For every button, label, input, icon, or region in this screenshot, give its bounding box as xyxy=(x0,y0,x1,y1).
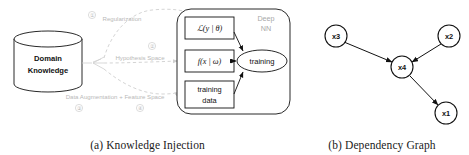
training-node-label: training xyxy=(250,57,275,66)
loss-function-box: ℒ(y | θ) xyxy=(185,17,234,39)
dependency-graph-diagram: x3 x2 x4 x1 xyxy=(295,0,469,130)
deep-nn-label-line1: Deep xyxy=(257,14,274,23)
panel-b-caption: (b) Dependency Graph xyxy=(295,139,469,151)
edge-x4-to-x1 xyxy=(410,76,438,105)
deep-nn-label-line2: NN xyxy=(261,24,271,33)
pathway-label-bottom: Data Augmentation + Feature Space xyxy=(66,93,165,100)
pathway-label-hypothesis-space: ② Hypothesis Space xyxy=(115,42,165,60)
training-node: training xyxy=(237,50,287,72)
graph-node-x4: x4 xyxy=(391,56,413,78)
training-data-box: training data xyxy=(185,81,234,108)
pathway-data-augmentation-line xyxy=(104,69,180,94)
training-data-label-line1: training xyxy=(197,85,221,94)
loss-function-label: ℒ(y | θ) xyxy=(197,24,223,33)
graph-node-x3-label: x3 xyxy=(332,32,340,41)
database-label-line1: Domain xyxy=(34,54,62,63)
figure-container: Domain Knowledge ① xyxy=(0,0,469,155)
training-data-label-line2: data xyxy=(202,96,217,105)
graph-node-x3: x3 xyxy=(325,25,347,47)
knowledge-injection-diagram: Domain Knowledge ① xyxy=(0,0,295,130)
pathway-label-1: Regularization xyxy=(103,15,142,22)
panel-dependency-graph: x3 x2 x4 x1 (b) Dependency Graph xyxy=(295,0,469,155)
graph-node-x1: x1 xyxy=(435,102,457,124)
edge-x2-to-x4 xyxy=(412,44,441,62)
model-function-label: f(x | ω) xyxy=(198,57,222,66)
graph-node-x2-label: x2 xyxy=(445,32,453,41)
graph-node-x4-label: x4 xyxy=(398,63,407,72)
domain-knowledge-database: Domain Knowledge xyxy=(14,31,82,92)
graph-node-x2: x2 xyxy=(438,25,460,47)
model-function-box: f(x | ω) xyxy=(185,50,234,72)
database-label-line2: Knowledge xyxy=(28,66,69,75)
panel-knowledge-injection: Domain Knowledge ① xyxy=(0,0,295,155)
pathway-label-bottom: Data Augmentation + Feature Space ③ ④ xyxy=(66,93,165,112)
edge-x3-to-x4 xyxy=(344,42,392,62)
panel-a-caption: (a) Knowledge Injection xyxy=(0,139,295,151)
pathway-label-2: Hypothesis Space xyxy=(115,54,165,61)
pathway-label-regularization: ① Regularization xyxy=(88,11,141,21)
pathway-hypothesis-space-line xyxy=(104,61,178,63)
graph-node-x1-label: x1 xyxy=(442,109,450,118)
